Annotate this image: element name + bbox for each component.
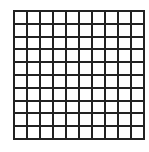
grid-cell [15, 12, 28, 25]
grid-cell [119, 76, 132, 89]
grid-cell [93, 50, 106, 63]
grid-cell [80, 25, 93, 38]
grid-cell [132, 25, 145, 38]
grid-cell [80, 63, 93, 76]
grid-cell [132, 38, 145, 51]
grid-cell [41, 127, 54, 140]
grid-cell [119, 114, 132, 127]
grid-cell [28, 127, 41, 140]
grid-cell [80, 89, 93, 102]
grid-cell [93, 102, 106, 115]
grid-cell [132, 127, 145, 140]
grid-cell [15, 89, 28, 102]
grid-cell [41, 25, 54, 38]
grid-cell [15, 102, 28, 115]
grid-cell [54, 25, 67, 38]
grid-cell [67, 114, 80, 127]
grid-cell [106, 89, 119, 102]
grid-cell [28, 38, 41, 51]
grid-cell [119, 25, 132, 38]
grid-cell [54, 12, 67, 25]
grid-cell [28, 89, 41, 102]
grid-cell [67, 12, 80, 25]
grid-cell [132, 63, 145, 76]
grid-cell [15, 38, 28, 51]
grid-cell [106, 12, 119, 25]
grid-cell [41, 50, 54, 63]
grid-cell [28, 12, 41, 25]
grid-cell [41, 102, 54, 115]
grid-cell [67, 102, 80, 115]
grid-cell [41, 38, 54, 51]
grid-cell [132, 89, 145, 102]
grid-cell [93, 63, 106, 76]
grid-cell [67, 25, 80, 38]
grid-cell [41, 12, 54, 25]
grid-cell [15, 76, 28, 89]
grid-cell [15, 50, 28, 63]
grid-cell [80, 76, 93, 89]
grid-cell [67, 127, 80, 140]
grid-cell [28, 102, 41, 115]
grid-cell [67, 38, 80, 51]
grid-cell [54, 38, 67, 51]
grid-cell [119, 12, 132, 25]
grid-cell [41, 89, 54, 102]
grid-cell [93, 12, 106, 25]
grid-cell [67, 89, 80, 102]
grid-cell [93, 114, 106, 127]
grid-cell [28, 25, 41, 38]
grid-cell [67, 63, 80, 76]
grid-cell [54, 127, 67, 140]
grid-cell [132, 12, 145, 25]
grid-cell [106, 76, 119, 89]
grid-cell [54, 114, 67, 127]
grid-cell [119, 63, 132, 76]
grid-cell [93, 127, 106, 140]
grid-cell [132, 50, 145, 63]
grid-cell [132, 114, 145, 127]
grid-cell [15, 63, 28, 76]
grid-cell [80, 12, 93, 25]
grid-cell [106, 25, 119, 38]
grid-cell [106, 63, 119, 76]
grid-cell [93, 38, 106, 51]
grid-cell [54, 63, 67, 76]
grid-cell [119, 50, 132, 63]
square-grid [13, 10, 145, 140]
grid-cell [54, 50, 67, 63]
grid-cell [28, 50, 41, 63]
grid-cell [15, 114, 28, 127]
grid-cell [15, 127, 28, 140]
grid-cell [28, 76, 41, 89]
grid-cell [106, 114, 119, 127]
grid-cell [28, 114, 41, 127]
grid-cell [54, 102, 67, 115]
grid-cell [119, 89, 132, 102]
grid-cell [106, 38, 119, 51]
grid-cell [119, 102, 132, 115]
grid-cell [67, 50, 80, 63]
grid-cell [119, 38, 132, 51]
grid-cell [93, 89, 106, 102]
grid-cell [80, 102, 93, 115]
grid-cell [119, 127, 132, 140]
grid-cell [106, 50, 119, 63]
grid-cell [106, 102, 119, 115]
grid-cell [106, 127, 119, 140]
grid-cell [132, 76, 145, 89]
grid-cell [15, 25, 28, 38]
grid-cell [132, 102, 145, 115]
grid-cell [41, 76, 54, 89]
grid-cell [80, 50, 93, 63]
grid-cell [93, 76, 106, 89]
grid-cell [80, 114, 93, 127]
grid-cell [28, 63, 41, 76]
grid-cell [41, 63, 54, 76]
grid-cell [67, 76, 80, 89]
grid-cell [80, 127, 93, 140]
grid-cell [54, 89, 67, 102]
grid-cell [54, 76, 67, 89]
grid-cell [93, 25, 106, 38]
grid-cell [41, 114, 54, 127]
